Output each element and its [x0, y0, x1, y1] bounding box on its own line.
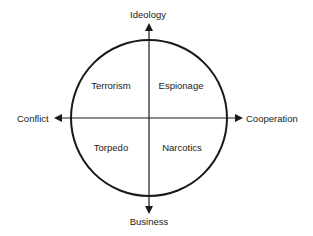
quadrant-top-left: Terrorism	[91, 80, 131, 91]
axis-label-right: Cooperation	[246, 113, 298, 124]
quadrant-bottom-left: Torpedo	[94, 142, 128, 153]
quadrant-bottom-right: Narcotics	[162, 142, 202, 153]
axis-label-bottom: Business	[130, 216, 169, 227]
axis-label-left: Conflict	[17, 113, 49, 124]
axis-label-top: Ideology	[130, 9, 166, 20]
quadrant-top-right: Espionage	[159, 80, 204, 91]
